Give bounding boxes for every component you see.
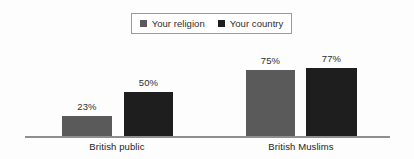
- bar-chart: Your religion Your country 23% 50% 75% 7…: [0, 0, 414, 159]
- bar-fill: [62, 116, 112, 136]
- bar-british-muslims-your-country: 77%: [306, 68, 357, 136]
- x-axis-baseline: [25, 136, 390, 138]
- bar-british-public-your-religion: 23%: [62, 116, 112, 136]
- bar-fill: [124, 92, 173, 136]
- bar-fill: [246, 70, 295, 136]
- plot-area: 23% 50% 75% 77% British public British M…: [0, 0, 414, 159]
- bar-value-label: 50%: [139, 77, 158, 88]
- bar-value-label: 23%: [77, 101, 96, 112]
- bar-value-label: 75%: [261, 55, 280, 66]
- x-axis-label-british-public: British public: [89, 141, 144, 152]
- bar-british-muslims-your-religion: 75%: [246, 70, 295, 136]
- bar-british-public-your-country: 50%: [124, 92, 173, 136]
- bar-value-label: 77%: [322, 53, 341, 64]
- x-axis-label-british-muslims: British Muslims: [268, 141, 333, 152]
- bar-fill: [306, 68, 357, 136]
